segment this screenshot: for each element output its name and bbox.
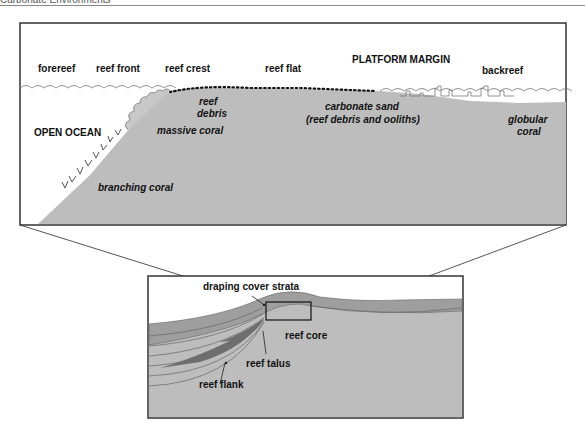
label-reef-flank: reef flank — [199, 379, 244, 390]
lower-panel: draping cover strata reef core reef talu… — [148, 276, 463, 418]
label-reef-front: reef front — [96, 63, 141, 74]
label-backreef: backreef — [482, 65, 524, 76]
pointer-dot-flank — [225, 362, 228, 365]
label-draping-cover-strata: draping cover strata — [203, 281, 300, 292]
label-reef-flat: reef flat — [265, 63, 302, 74]
label-reef-core: reef core — [285, 330, 328, 341]
label-carbonate-sand-2: (reef debris and ooliths) — [306, 114, 421, 125]
label-open-ocean: OPEN OCEAN — [34, 127, 101, 138]
label-globular-coral-1: globular — [507, 114, 549, 125]
label-platform-margin: PLATFORM MARGIN — [352, 54, 450, 65]
upper-panel: forereef reef front reef crest reef flat… — [20, 23, 572, 225]
label-globular-coral-2: coral — [517, 126, 541, 137]
pointer-dot-draping — [263, 304, 266, 307]
label-massive-coral: massive coral — [157, 125, 223, 136]
label-reef-talus: reef talus — [246, 358, 291, 369]
label-reef-debris-2: debris — [197, 108, 227, 119]
label-forereef: forereef — [38, 63, 76, 74]
label-reef-debris-1: reef — [199, 96, 219, 107]
label-branching-coral: branching coral — [98, 182, 173, 193]
label-reef-crest: reef crest — [165, 63, 211, 74]
reef-diagram: forereef reef front reef crest reef flat… — [0, 0, 585, 437]
label-carbonate-sand-1: carbonate sand — [325, 101, 400, 112]
